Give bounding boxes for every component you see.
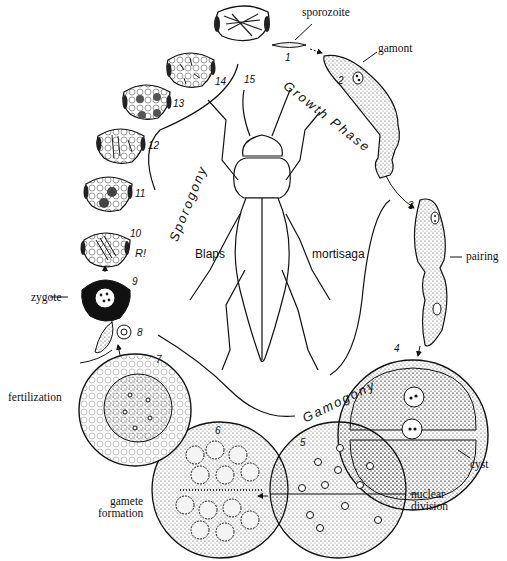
beetle-blaps-mortisaga xyxy=(190,90,330,370)
label-pairing: pairing xyxy=(466,250,499,262)
stage-number-5: 5 xyxy=(300,437,306,448)
stage-1-sporozoite xyxy=(272,24,322,53)
stage-14 xyxy=(167,53,216,87)
gamogony-bracket-right xyxy=(330,200,390,375)
label-gamete: gamete xyxy=(110,495,143,507)
stage-number-4: 4 xyxy=(394,343,400,354)
stage-number-9: 9 xyxy=(132,276,138,287)
label-genus: Blaps xyxy=(195,247,225,261)
stage-number-6: 6 xyxy=(215,425,221,436)
stage-number-2: 2 xyxy=(338,75,344,86)
stage-12 xyxy=(97,129,146,163)
stage-number-12: 12 xyxy=(148,140,159,151)
stage-number-3: 3 xyxy=(408,200,414,211)
label-nuclear: nuclear xyxy=(411,488,445,500)
stage-11 xyxy=(84,177,133,211)
label-sporozoite: sporozoite xyxy=(302,6,350,18)
label-cyst: cyst xyxy=(470,458,489,470)
stage-9-zygote xyxy=(82,266,131,321)
stage-3-pairing xyxy=(414,199,462,356)
label-fertilization: fertilization xyxy=(8,391,62,403)
stage-13 xyxy=(123,85,172,119)
stage-number-13: 13 xyxy=(173,98,184,109)
stage-10 xyxy=(81,233,131,267)
stage-number-1: 1 xyxy=(285,52,291,63)
label-formation: formation xyxy=(98,507,143,519)
label-reduction: R! xyxy=(135,247,146,259)
stage-number-7: 7 xyxy=(156,354,162,365)
stage-number-8: 8 xyxy=(137,327,143,338)
stage-7-fertilization-cyst xyxy=(79,345,191,466)
stage-number-10: 10 xyxy=(130,228,141,239)
label-zygote: zygote xyxy=(31,291,62,303)
stage-number-11: 11 xyxy=(135,188,145,199)
label-gamont: gamont xyxy=(378,42,413,54)
stage-15-oocyst xyxy=(214,6,270,41)
stage-number-14: 14 xyxy=(215,76,226,87)
label-species: mortisaga xyxy=(312,247,365,261)
label-division: division xyxy=(411,500,448,512)
stage-number-15: 15 xyxy=(244,74,255,85)
